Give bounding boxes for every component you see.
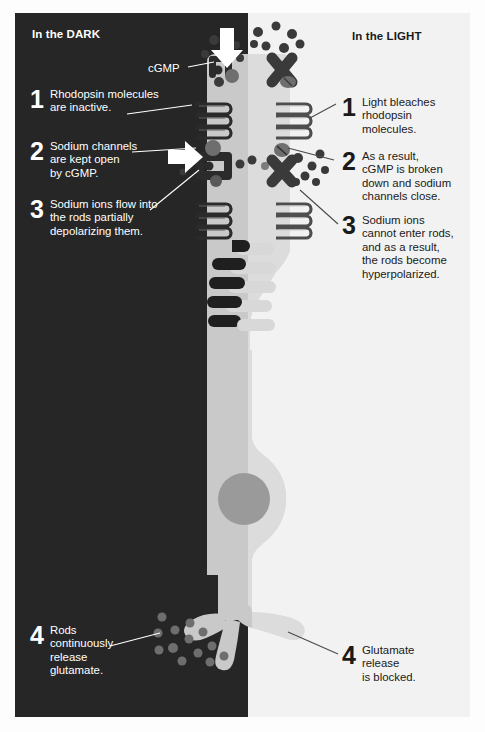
light-step-1-number: 1: [342, 96, 356, 118]
light-step-3: 3 Sodium ions cannot enter rods, and as …: [342, 214, 454, 281]
dark-step-2-number: 2: [30, 140, 44, 162]
light-step-1: 1 Light bleaches rhodopsin molecules.: [342, 96, 435, 136]
diagram-canvas: In the DARK In the LIGHT: [0, 0, 485, 732]
dark-step-3-number: 3: [30, 198, 44, 220]
light-step-3-text: Sodium ions cannot enter rods, and as a …: [362, 214, 454, 281]
dark-step-4: 4 Rods continuously release glutamate.: [30, 624, 113, 678]
light-step-1-text: Light bleaches rhodopsin molecules.: [362, 96, 435, 136]
dark-step-3-text: Sodium ions flow into the rods partially…: [50, 198, 158, 238]
light-step-2-text: As a result, cGMP is broken down and sod…: [362, 150, 451, 204]
dark-step-4-text: Rods continuously release glutamate.: [50, 624, 113, 678]
light-step-4: 4 Glutamate release is blocked.: [342, 644, 416, 684]
light-step-2: 2 As a result, cGMP is broken down and s…: [342, 150, 451, 204]
light-step-4-number: 4: [342, 644, 356, 666]
dark-step-2-text: Sodium channels are kept open by cGMP.: [50, 140, 137, 180]
nucleus-icon: [218, 473, 270, 525]
light-step-2-number: 2: [342, 150, 356, 172]
dark-step-3: 3 Sodium ions flow into the rods partial…: [30, 198, 158, 238]
cell-inner-segment: [207, 350, 252, 440]
light-step-3-number: 3: [342, 214, 356, 236]
cgmp-label: cGMP: [148, 62, 180, 74]
dark-step-1-text: Rhodopsin molecules are inactive.: [50, 88, 159, 115]
cell-synaptic-terminal: [184, 572, 305, 670]
cell-soma: [207, 438, 286, 575]
dark-step-1: 1 Rhodopsin molecules are inactive.: [30, 88, 159, 115]
light-step-4-text: Glutamate release is blocked.: [362, 644, 416, 684]
dark-step-4-number: 4: [30, 624, 44, 646]
dark-step-2: 2 Sodium channels are kept open by cGMP.: [30, 140, 137, 180]
sodium-channel-closed-icon-top: [272, 58, 296, 88]
dark-step-1-number: 1: [30, 88, 44, 110]
